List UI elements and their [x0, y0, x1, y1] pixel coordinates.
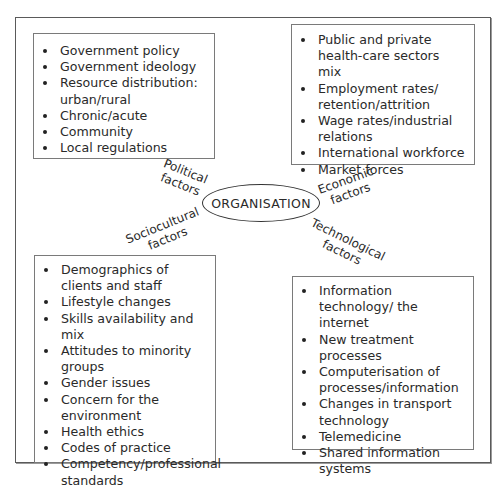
political-factors-list: Government policy Government ideology Re… — [34, 43, 210, 156]
list-item: Shared information systems — [293, 445, 449, 477]
list-item: Information technology/ the internet — [293, 283, 459, 332]
sociocultural-factors-list: Demographics of clients and staff Lifest… — [35, 262, 213, 489]
list-item: Health ethics — [35, 424, 213, 440]
list-item: Competency/professional standards — [35, 456, 211, 488]
list-item: Changes in transport technology — [293, 396, 459, 428]
list-item: Computerisation of processes/information — [293, 364, 469, 396]
list-item: Lifestyle changes — [35, 294, 213, 310]
list-item: Government ideology — [34, 59, 210, 75]
technological-factors-box: Information technology/ the internet New… — [292, 276, 474, 450]
list-item: New treatment processes — [293, 332, 471, 364]
list-item: Attitudes to minority groups — [35, 343, 201, 375]
list-item: International workforce — [292, 145, 470, 161]
list-item: Concern for the environment — [35, 392, 181, 424]
list-item: Chronic/acute — [34, 108, 210, 124]
economic-factors-list: Public and private health-care sectors m… — [292, 32, 470, 178]
list-item: Demographics of clients and staff — [35, 262, 211, 294]
list-item: Government policy — [34, 43, 210, 59]
list-item: Wage rates/industrial relations — [292, 113, 458, 145]
organisation-label: ORGANISATION — [211, 196, 311, 211]
sociocultural-factors-box: Demographics of clients and staff Lifest… — [34, 255, 216, 463]
list-item: Gender issues — [35, 375, 213, 391]
economic-factors-box: Public and private health-care sectors m… — [291, 24, 475, 165]
political-factors-box: Government policy Government ideology Re… — [33, 33, 215, 159]
list-item: Employment rates/ retention/attrition — [292, 81, 448, 113]
list-item: Resource distribution: urban/rural — [34, 75, 210, 107]
technological-factors-list: Information technology/ the internet New… — [293, 283, 471, 477]
list-item: Public and private health-care sectors m… — [292, 32, 458, 81]
list-item: Skills availability and mix — [35, 311, 213, 343]
organisation-node: ORGANISATION — [202, 184, 320, 222]
list-item: Local regulations — [34, 140, 210, 156]
list-item: Telemedicine — [293, 429, 471, 445]
list-item: Codes of practice — [35, 440, 213, 456]
list-item: Community — [34, 124, 210, 140]
